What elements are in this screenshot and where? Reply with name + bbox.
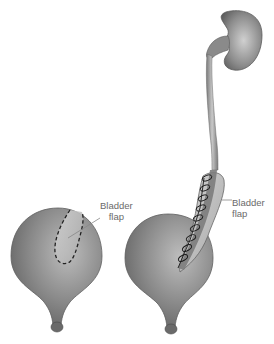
bladder-flap-label-left: Bladder flap xyxy=(100,200,133,222)
label-line-2: flap xyxy=(100,211,133,222)
bladder-flap-diagram xyxy=(0,0,274,344)
bladder-flap-label-right: Bladder flap xyxy=(232,197,265,219)
left-urethra-nub xyxy=(51,322,63,332)
label-line-1: Bladder xyxy=(100,200,133,211)
left-bladder xyxy=(11,208,102,332)
label-line-1: Bladder xyxy=(232,197,265,208)
right-urethra-nub xyxy=(165,324,177,334)
label-line-2: flap xyxy=(232,208,265,219)
